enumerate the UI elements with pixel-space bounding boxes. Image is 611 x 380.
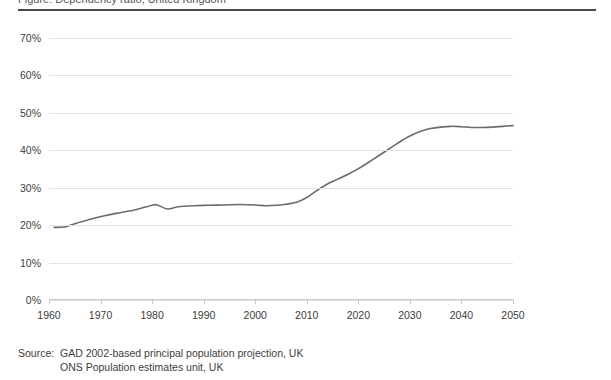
x-axis-tick	[204, 300, 205, 304]
x-axis-tick	[307, 300, 308, 304]
x-axis-tick-label: 1990	[192, 309, 215, 321]
source-line: GAD 2002-based principal population proj…	[60, 347, 303, 361]
figure-top-rule	[18, 9, 596, 11]
source-line: ONS Population estimates unit, UK	[60, 361, 303, 375]
y-axis-tick-label: 10%	[20, 257, 41, 269]
gridline-y	[49, 300, 513, 301]
gridline-y	[49, 38, 513, 39]
y-axis-tick-label: 30%	[20, 182, 41, 194]
y-axis-tick-label: 40%	[20, 144, 41, 156]
chart-plot-area: 0%10%20%30%40%50%60%70%19601970198019902…	[49, 38, 513, 300]
gridline-y	[49, 75, 513, 76]
x-axis-tick	[410, 300, 411, 304]
gridline-y	[49, 188, 513, 189]
x-axis-tick	[255, 300, 256, 304]
x-axis-tick-label: 2050	[501, 309, 524, 321]
y-axis-tick-label: 0%	[26, 294, 41, 306]
figure-title-clipped: Figure: Dependency ratio, United Kingdom	[18, 0, 596, 7]
source-label: Source:	[18, 347, 60, 374]
source-block: Source: GAD 2002-based principal populat…	[18, 347, 303, 374]
gridline-y	[49, 263, 513, 264]
x-axis-tick-label: 2030	[398, 309, 421, 321]
x-axis-tick	[49, 300, 50, 304]
y-axis-tick-label: 60%	[20, 69, 41, 81]
gridline-y	[49, 150, 513, 151]
x-axis-tick	[101, 300, 102, 304]
x-axis-tick	[513, 300, 514, 304]
data-line-dependency-ratio	[54, 126, 513, 228]
y-axis-tick-label: 50%	[20, 107, 41, 119]
x-axis-tick-label: 2020	[347, 309, 370, 321]
x-axis-tick-label: 1960	[37, 309, 60, 321]
x-axis-tick	[152, 300, 153, 304]
gridline-y	[49, 225, 513, 226]
x-axis-tick-label: 2010	[295, 309, 318, 321]
x-axis-tick-label: 1970	[89, 309, 112, 321]
source-lines: GAD 2002-based principal population proj…	[60, 347, 303, 374]
x-axis-tick-label: 1980	[140, 309, 163, 321]
x-axis-line	[49, 299, 513, 300]
line-series-svg	[49, 38, 513, 300]
y-axis-tick-label: 20%	[20, 219, 41, 231]
x-axis-tick	[461, 300, 462, 304]
x-axis-tick-label: 2040	[450, 309, 473, 321]
gridline-y	[49, 113, 513, 114]
x-axis-tick-label: 2000	[244, 309, 267, 321]
y-axis-tick-label: 70%	[20, 32, 41, 44]
figure-container: Figure: Dependency ratio, United Kingdom…	[0, 0, 611, 380]
x-axis-tick	[358, 300, 359, 304]
